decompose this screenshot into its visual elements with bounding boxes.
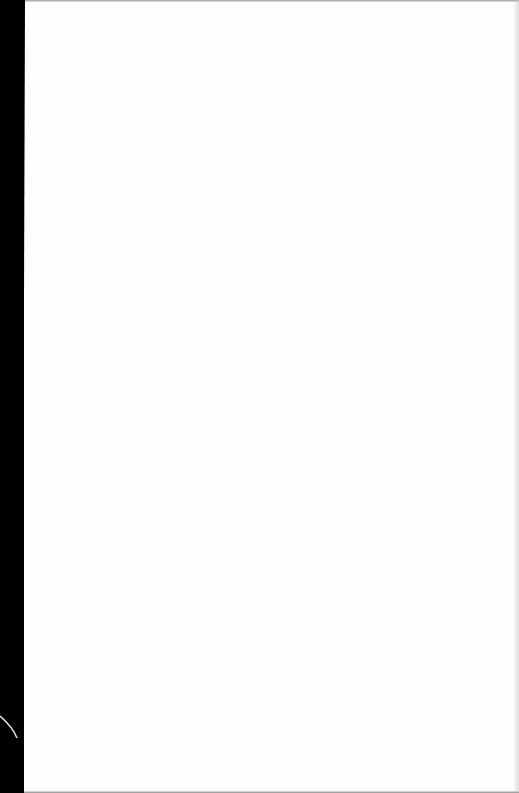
page-right-shadow — [513, 0, 519, 793]
scanner-bed-edge — [0, 0, 25, 793]
page-content — [54, 30, 489, 763]
blank-page — [24, 0, 519, 793]
page-corner-curl-artifact — [0, 714, 22, 754]
scanned-document — [0, 0, 519, 793]
page-top-edge — [24, 0, 519, 2]
